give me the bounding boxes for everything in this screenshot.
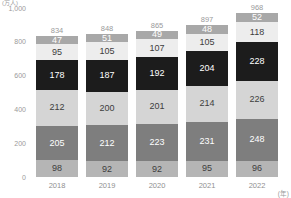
x-axis-tick-label: 2021 [186, 182, 228, 190]
stacked-bar-chart: (万人) 1,0008006004002000 4795178212205988… [0, 0, 291, 198]
bar-segment[interactable]: 49 [136, 31, 178, 39]
stacked-bar[interactable]: 4910719220122392 [136, 31, 178, 177]
bar-total-label: 865 [136, 22, 178, 30]
bar-segment[interactable]: 223 [136, 124, 178, 162]
bar-segment[interactable]: 226 [236, 81, 278, 119]
bar-segment[interactable]: 52 [236, 13, 278, 22]
bar-segment[interactable]: 107 [136, 39, 178, 57]
x-axis-tick-label: 2018 [36, 182, 78, 190]
y-axis-tick-label: 1,000 [0, 5, 26, 12]
bar-segment[interactable]: 118 [236, 22, 278, 42]
y-axis-tick-label: 400 [0, 106, 26, 113]
plot-area: 4795178212205988342018511051872002129284… [30, 8, 291, 177]
bar-segment[interactable]: 98 [36, 160, 78, 177]
bar-segment[interactable]: 178 [36, 60, 78, 90]
bar-group: 49107192201223928652020 [136, 8, 178, 177]
stacked-bar[interactable]: 4810520421423195 [186, 25, 228, 177]
x-axis-tick-label: 2022 [236, 182, 278, 190]
bar-segment[interactable]: 187 [86, 60, 128, 92]
bar-segment[interactable]: 248 [236, 119, 278, 161]
y-axis-tick-label: 0 [0, 174, 26, 181]
bar-segment[interactable]: 200 [86, 92, 128, 126]
x-axis-tick-label: 2019 [86, 182, 128, 190]
bar-segment[interactable]: 95 [186, 161, 228, 177]
bar-segment[interactable]: 228 [236, 42, 278, 81]
y-axis-tick-label: 800 [0, 38, 26, 45]
bar-segment[interactable]: 48 [186, 25, 228, 33]
x-axis-tick-label: 2020 [136, 182, 178, 190]
bar-segment[interactable]: 92 [86, 161, 128, 177]
bar-segment[interactable]: 212 [86, 125, 128, 161]
bar-total-label: 848 [86, 25, 128, 33]
bar-segment[interactable]: 96 [236, 161, 278, 177]
bar-segment[interactable]: 212 [36, 90, 78, 126]
x-axis-unit-label: (年) [278, 190, 289, 198]
bar-segment[interactable]: 47 [36, 36, 78, 44]
bar-total-label: 968 [236, 4, 278, 12]
bar-total-label: 834 [36, 27, 78, 35]
bar-segment[interactable]: 105 [86, 42, 128, 60]
bar-segment[interactable]: 95 [36, 44, 78, 60]
bar-group: 4795178212205988342018 [36, 8, 78, 177]
y-axis-tick-label: 600 [0, 72, 26, 79]
stacked-bar[interactable]: 5110518720021292 [86, 34, 128, 177]
stacked-bar[interactable]: 479517821220598 [36, 36, 78, 177]
bar-segment[interactable]: 51 [86, 34, 128, 43]
bar-segment[interactable]: 204 [186, 51, 228, 85]
bar-segment[interactable]: 205 [36, 126, 78, 161]
bar-segment[interactable]: 192 [136, 57, 178, 89]
bar-segment[interactable]: 105 [186, 34, 228, 52]
bar-group: 52118228226248969682022 [236, 8, 278, 177]
bar-total-label: 897 [186, 16, 228, 24]
bar-segment[interactable]: 201 [136, 90, 178, 124]
bar-segment[interactable]: 214 [186, 86, 228, 122]
bar-group: 51105187200212928482019 [86, 8, 128, 177]
y-axis-tick-label: 200 [0, 140, 26, 147]
bar-segment[interactable]: 231 [186, 122, 228, 161]
stacked-bar[interactable]: 5211822822624896 [236, 13, 278, 177]
bar-segment[interactable]: 92 [136, 161, 178, 177]
bar-group: 48105204214231958972021 [186, 8, 228, 177]
